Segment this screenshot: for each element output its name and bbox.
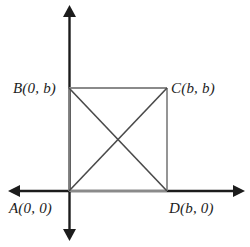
vertex-label-d: D(b, 0) bbox=[169, 201, 214, 216]
y-axis-down-arrowhead-icon bbox=[63, 229, 76, 241]
square-diagonals bbox=[69, 88, 167, 191]
y-axis-up-arrowhead-icon bbox=[63, 5, 76, 17]
coordinate-geometry-figure: B(0, b) C(b, b) A(0, 0) D(b, 0) bbox=[0, 0, 250, 247]
vertex-label-b: B(0, b) bbox=[13, 81, 56, 96]
vertex-label-a: A(0, 0) bbox=[9, 201, 52, 216]
x-axis-right-arrowhead-icon bbox=[233, 185, 245, 197]
x-axis-left-arrowhead-icon bbox=[8, 185, 20, 197]
vertex-label-c: C(b, b) bbox=[171, 81, 215, 96]
